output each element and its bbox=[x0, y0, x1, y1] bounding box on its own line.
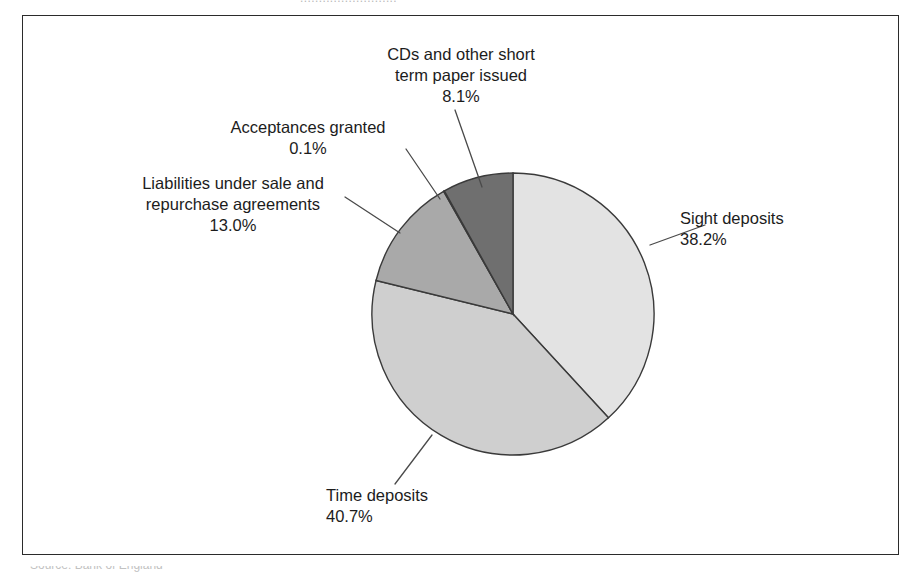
pie-label-cds-value: 8.1% bbox=[333, 86, 589, 107]
pie-slices bbox=[372, 173, 654, 455]
pie-label-acceptances-value: 0.1% bbox=[182, 138, 434, 159]
bottom-clipped-caption: Source: Bank of England bbox=[0, 566, 923, 575]
pie-label-sight-deposits: Sight deposits 38.2% bbox=[680, 208, 880, 250]
pie-label-cds-line1: CDs and other short bbox=[333, 44, 589, 65]
pie-label-time-value: 40.7% bbox=[326, 506, 538, 527]
pie-label-time-line1: Time deposits bbox=[326, 485, 538, 506]
leader-line-time bbox=[395, 435, 432, 484]
pie-label-cds-line2: term paper issued bbox=[333, 65, 589, 86]
pie-label-liabilities-line2: repurchase agreements bbox=[85, 194, 381, 215]
leader-line-cds bbox=[455, 110, 482, 187]
pie-label-time-deposits: Time deposits 40.7% bbox=[326, 485, 538, 527]
pie-label-liabilities-line1: Liabilities under sale and bbox=[85, 173, 381, 194]
bottom-clipped-caption-text: Source: Bank of England bbox=[30, 566, 163, 572]
pie-label-liabilities-value: 13.0% bbox=[85, 215, 381, 236]
figure-page: .......................... CDs and other… bbox=[0, 0, 923, 575]
pie-label-acceptances-line1: Acceptances granted bbox=[182, 117, 434, 138]
pie-label-liabilities-repo: Liabilities under sale and repurchase ag… bbox=[85, 173, 381, 236]
pie-label-sight-line1: Sight deposits bbox=[680, 208, 880, 229]
pie-label-acceptances-granted: Acceptances granted 0.1% bbox=[182, 117, 434, 159]
pie-label-sight-value: 38.2% bbox=[680, 229, 880, 250]
pie-label-cds-short-term-paper: CDs and other short term paper issued 8.… bbox=[333, 44, 589, 107]
